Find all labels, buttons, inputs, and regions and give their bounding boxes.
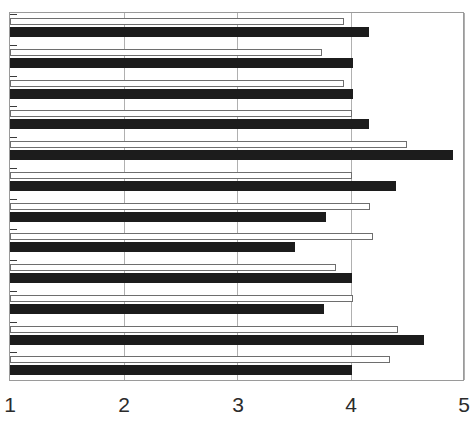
category-tick (10, 291, 17, 292)
x-axis-tick-labels: 1 2 3 4 5 (0, 392, 475, 428)
chart-title (0, 0, 1, 1)
bar-series-2 (10, 89, 353, 99)
bar-group (10, 228, 463, 259)
bar-series-1 (10, 264, 336, 271)
bar-group (10, 105, 463, 136)
x-tick-label-4: 4 (345, 392, 357, 418)
bar-series-2 (10, 365, 352, 375)
x-tick-label-1: 1 (4, 392, 16, 418)
bar-series-1 (10, 172, 352, 179)
bar-series-1 (10, 141, 407, 148)
bar-series-2 (10, 150, 453, 160)
category-tick (10, 76, 17, 77)
bar-group (10, 167, 463, 198)
bar-series-1 (10, 18, 344, 25)
x-tick-label-5: 5 (458, 392, 470, 418)
bar-group (10, 136, 463, 167)
bar-group (10, 290, 463, 321)
bar-series-2 (10, 212, 326, 222)
category-tick (10, 106, 17, 107)
bar-group (10, 75, 463, 106)
bar-series-2 (10, 27, 369, 37)
category-tick (10, 229, 17, 230)
bar-series-1 (10, 356, 390, 363)
bar-series-1 (10, 49, 322, 56)
category-tick (10, 199, 17, 200)
bar-series-1 (10, 203, 370, 210)
bar-group (10, 321, 463, 352)
bar-series-2 (10, 181, 396, 191)
bar-group (10, 44, 463, 75)
bar-series-1 (10, 295, 353, 302)
category-tick (10, 352, 17, 353)
bar-series-2 (10, 304, 324, 314)
bar-series-2 (10, 119, 369, 129)
bar-series-2 (10, 273, 352, 283)
plot-area (9, 12, 464, 381)
category-tick (10, 260, 17, 261)
bar-series-1 (10, 80, 344, 87)
bar-series-2 (10, 58, 353, 68)
category-tick (10, 137, 17, 138)
x-tick-label-3: 3 (232, 392, 244, 418)
x-tick-label-2: 2 (118, 392, 130, 418)
category-tick (10, 14, 17, 15)
category-tick (10, 45, 17, 46)
bar-series-1 (10, 326, 398, 333)
category-tick (10, 168, 17, 169)
bar-group (10, 13, 463, 44)
bar-group (10, 198, 463, 229)
bar-series-1 (10, 233, 373, 240)
bar-group (10, 259, 463, 290)
bar-group (10, 351, 463, 382)
bars-layer (10, 13, 463, 380)
bar-series-2 (10, 335, 424, 345)
gridline-x-5 (464, 13, 465, 380)
horizontal-bar-chart: 1 2 3 4 5 (0, 0, 475, 431)
bar-series-1 (10, 110, 352, 117)
bar-series-2 (10, 242, 295, 252)
category-tick (10, 322, 17, 323)
